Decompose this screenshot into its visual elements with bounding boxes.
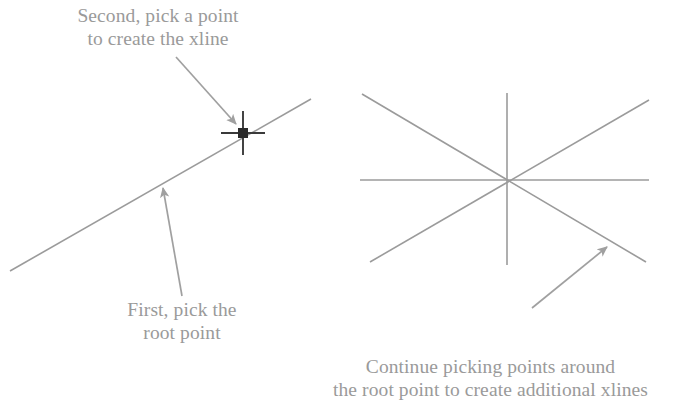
crosshair-cursor-icon[interactable]	[221, 111, 265, 155]
left-diagram-group	[10, 57, 311, 296]
caption-first-pick: First, pick the root point	[82, 298, 282, 344]
caption-second-pick: Second, pick a point to create the xline	[36, 4, 280, 50]
figure-canvas: Second, pick a point to create the xline…	[0, 0, 685, 408]
arrow-to-additional-xline	[532, 247, 607, 308]
xline-diagram-svg	[0, 0, 685, 408]
xline-left-main	[10, 99, 311, 271]
caption-continue-picking: Continue picking points around the root …	[296, 355, 685, 401]
right-diagram-group	[360, 93, 649, 308]
crosshair-pickbox	[239, 129, 248, 138]
arrow-to-root-point	[163, 188, 182, 296]
xline-diagonal-down	[362, 94, 646, 262]
arrow-to-pick-point	[176, 57, 236, 124]
